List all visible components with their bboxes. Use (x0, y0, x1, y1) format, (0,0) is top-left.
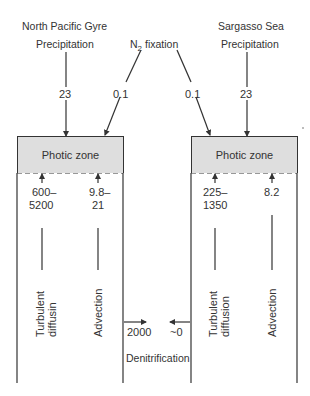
right-photic-zone-label: Photic zone (192, 149, 297, 161)
left-n2-fixation-value: 0.1 (113, 88, 128, 100)
denitrification-label: Denitrification (126, 352, 190, 364)
left-photic-zone-label: Photic zone (18, 149, 123, 161)
right-n2-line-top (177, 50, 191, 82)
right-turbulent-label-2: diffusion (220, 296, 231, 337)
right-precipitation-value: 23 (240, 88, 252, 100)
left-precipitation-value: 23 (59, 88, 71, 100)
left-turbulent-label-1: Turbulent (35, 291, 46, 337)
left-photic-zone: Photic zone (17, 136, 124, 173)
right-system-title: Sargasso Sea (218, 20, 284, 32)
right-photic-zone: Photic zone (191, 136, 298, 173)
right-advection-value: 8.2 (264, 186, 279, 198)
stray-dot (302, 127, 304, 129)
n2-fixation-n: N (130, 38, 138, 50)
n2-fixation-rest: fixation (142, 38, 178, 50)
right-advection-label: Advection (267, 289, 278, 337)
left-denitrification-value: 2000 (127, 326, 151, 338)
right-precipitation-label: Precipitation (221, 38, 279, 50)
right-denitrification-value: ~0 (170, 326, 183, 338)
left-advection-value-1: 9.8– (89, 186, 110, 198)
left-n2-arrow (105, 97, 120, 135)
right-n2-arrow (196, 97, 210, 135)
left-turbulent-label-2: diffusin (47, 302, 58, 337)
left-advection-value-2: 21 (92, 199, 104, 211)
left-precipitation-label: Precipitation (36, 38, 94, 50)
right-n2-fixation-value: 0.1 (185, 88, 200, 100)
n2-fixation-label: N2 fixation (130, 38, 178, 55)
right-turbulent-value-1: 225– (203, 186, 227, 198)
left-turbulent-value-2: 5200 (29, 199, 53, 211)
left-advection-label: Advection (93, 289, 104, 337)
right-turbulent-label-1: Turbulent (208, 291, 219, 337)
left-turbulent-value-1: 600– (32, 186, 56, 198)
right-turbulent-value-2: 1350 (203, 199, 227, 211)
left-system-title: North Pacific Gyre (22, 20, 107, 32)
